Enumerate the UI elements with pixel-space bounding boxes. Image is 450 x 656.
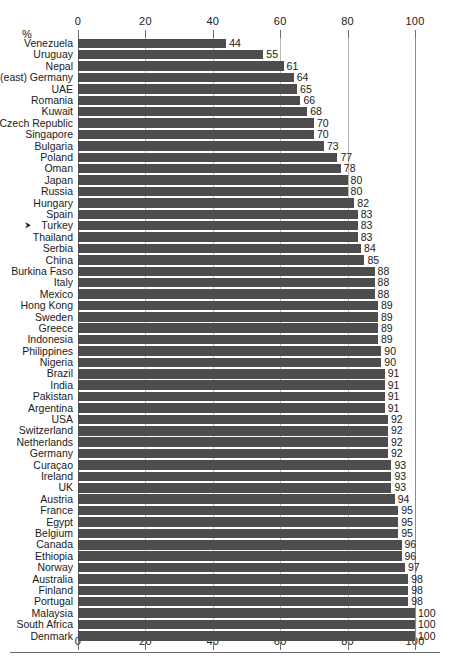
bar-row[interactable]: Uruguay55 [78,49,415,60]
bar-row[interactable]: UAE65 [78,84,415,95]
bar-row[interactable]: Belgium95 [78,528,415,539]
bar[interactable] [78,278,375,287]
bar[interactable] [78,164,341,173]
bar-row[interactable]: Kuwait68 [78,106,415,117]
bar[interactable] [78,586,408,595]
bar-row[interactable]: Singapore70 [78,129,415,140]
bar[interactable] [78,107,307,116]
bar[interactable] [78,118,314,127]
bar-row[interactable]: Egypt95 [78,517,415,528]
bar-row[interactable]: Oman78 [78,163,415,174]
bar[interactable] [78,244,361,253]
bar-row[interactable]: USA92 [78,414,415,425]
bar[interactable] [78,335,378,344]
bar-row[interactable]: South Africa100 [78,619,415,630]
bar[interactable] [78,130,314,139]
bar[interactable] [78,255,364,264]
bar[interactable] [78,517,398,526]
bar[interactable] [78,96,300,105]
bar-row[interactable]: Australia98 [78,574,415,585]
bar[interactable] [78,449,388,458]
bar-row[interactable]: Pakistan91 [78,391,415,402]
bar-row[interactable]: Brazil91 [78,368,415,379]
bar[interactable] [78,73,294,82]
bar-row[interactable]: Portugal98 [78,596,415,607]
bar-row[interactable]: Curaçao93 [78,460,415,471]
bar[interactable] [78,369,385,378]
bar[interactable] [78,574,408,583]
bar[interactable] [78,175,348,184]
bar-row[interactable]: Greece89 [78,323,415,334]
bar-row[interactable]: China85 [78,255,415,266]
bar-row[interactable]: Sweden89 [78,312,415,323]
bar-row[interactable]: Finland98 [78,585,415,596]
bar-row[interactable]: Burkina Faso88 [78,266,415,277]
bar-row[interactable]: India91 [78,380,415,391]
bar[interactable] [78,289,375,298]
bar[interactable] [78,267,375,276]
bar[interactable] [78,426,388,435]
bar-row[interactable]: Ireland93 [78,471,415,482]
bar-row[interactable]: Indonesia89 [78,334,415,345]
bar-row[interactable]: Nigeria90 [78,357,415,368]
bar-row[interactable]: Netherlands92 [78,437,415,448]
bar-row[interactable]: Ethiopia96 [78,551,415,562]
bar-row[interactable]: France95 [78,505,415,516]
bar[interactable] [78,529,398,538]
bar[interactable] [78,84,297,93]
bar[interactable] [78,358,381,367]
bar[interactable] [78,551,402,560]
bar[interactable] [78,312,378,321]
bar[interactable] [78,631,415,640]
bar[interactable] [78,232,358,241]
bar[interactable] [78,346,381,355]
bar[interactable] [78,50,263,59]
bar[interactable] [78,483,391,492]
bar[interactable] [78,403,385,412]
bar[interactable] [78,608,415,617]
bar-row[interactable]: Venezuela44 [78,38,415,49]
bar-row[interactable]: Serbia84 [78,243,415,254]
bar[interactable] [78,494,395,503]
bar-row[interactable]: Japan80 [78,175,415,186]
bar-row[interactable]: (east) Germany64 [78,72,415,83]
bar-row[interactable]: Poland77 [78,152,415,163]
bar-row[interactable]: Bulgaria73 [78,141,415,152]
bar[interactable] [78,415,388,424]
bar[interactable] [78,460,391,469]
bar[interactable] [78,472,391,481]
bar-row[interactable]: Austria94 [78,494,415,505]
bar[interactable] [78,540,402,549]
bar-row[interactable]: Nepal61 [78,61,415,72]
bar[interactable] [78,210,358,219]
bar-row[interactable]: UK93 [78,482,415,493]
bar[interactable] [78,198,354,207]
bar-row[interactable]: Czech Republic70 [78,118,415,129]
bar-row[interactable]: Denmark100 [78,631,415,642]
bar-row[interactable]: Argentina91 [78,403,415,414]
bar[interactable] [78,153,337,162]
bar[interactable] [78,597,408,606]
bar-row[interactable]: Norway97 [78,562,415,573]
bar-row[interactable]: Canada96 [78,539,415,550]
bar[interactable] [78,323,378,332]
bar-row[interactable]: Romania66 [78,95,415,106]
bar[interactable] [78,506,398,515]
bar-row[interactable]: Switzerland92 [78,425,415,436]
bar[interactable] [78,61,284,70]
bar[interactable] [78,301,378,310]
bar[interactable] [78,620,415,629]
bar[interactable] [78,380,385,389]
bar[interactable] [78,187,348,196]
bar[interactable] [78,563,405,572]
bar[interactable] [78,141,324,150]
bar-row[interactable]: Mexico88 [78,289,415,300]
bar-row[interactable]: Malaysia100 [78,608,415,619]
bar[interactable] [78,392,385,401]
bar-row[interactable]: Italy88 [78,277,415,288]
bar-row[interactable]: Hong Kong89 [78,300,415,311]
bar[interactable] [78,39,226,48]
bar-row[interactable]: Germany92 [78,448,415,459]
bar-row[interactable]: Philippines90 [78,346,415,357]
bar[interactable] [78,437,388,446]
